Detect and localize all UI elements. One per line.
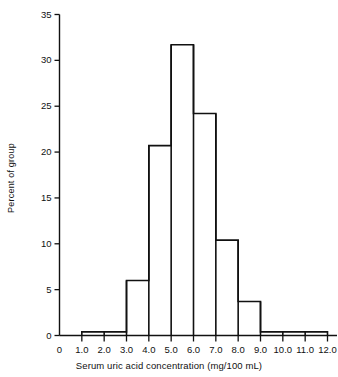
- axes-group: [55, 15, 338, 342]
- bars-group: [82, 45, 328, 336]
- x-axis-title: Serum uric acid concentration (mg/100 mL…: [0, 360, 338, 371]
- histogram-outline: [82, 45, 328, 336]
- plot-canvas: [0, 0, 338, 377]
- histogram-chart: Percent of group 05101520253035 01.02.03…: [0, 0, 338, 377]
